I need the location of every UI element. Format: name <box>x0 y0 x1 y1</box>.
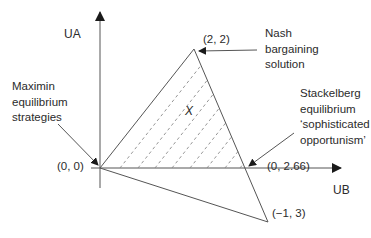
region-mark: X <box>185 104 193 120</box>
nash-point-label: (2, 2) <box>203 32 230 48</box>
edge-nash-bottom <box>194 49 268 222</box>
maximin-line-1: Maximin <box>12 79 68 95</box>
y-axis-label: UA <box>64 27 81 43</box>
maximin-line-3: strategies <box>12 110 68 126</box>
edge-origin-nash <box>100 49 194 168</box>
stackelberg-line-3: ‘sophisticated <box>300 117 370 133</box>
nash-line-3: solution <box>265 57 319 73</box>
x-axis-label: UB <box>333 183 350 199</box>
maximin-annotation: Maximin equilibrium strategies <box>12 79 68 126</box>
origin-point-label: (0, 0) <box>57 159 84 175</box>
stackelberg-point-label: (0, 2.66) <box>267 159 310 175</box>
nash-annotation: Nash bargaining solution <box>265 26 319 73</box>
feasible-region-hatching <box>120 65 244 168</box>
nash-arrow <box>199 50 257 51</box>
stackelberg-line-1: Stackelberg <box>300 86 370 102</box>
nash-line-1: Nash <box>265 26 319 42</box>
bottom-point-label: (−1, 3) <box>272 206 306 222</box>
stackelberg-annotation: Stackelberg equilibrium ‘sophisticated o… <box>300 86 370 148</box>
edge-origin-bottom <box>100 168 268 222</box>
stackelberg-line-4: opportunism’ <box>300 133 370 149</box>
maximin-line-2: equilibrium <box>12 95 68 111</box>
stackelberg-line-2: equilibrium <box>300 102 370 118</box>
nash-line-2: bargaining <box>265 42 319 58</box>
